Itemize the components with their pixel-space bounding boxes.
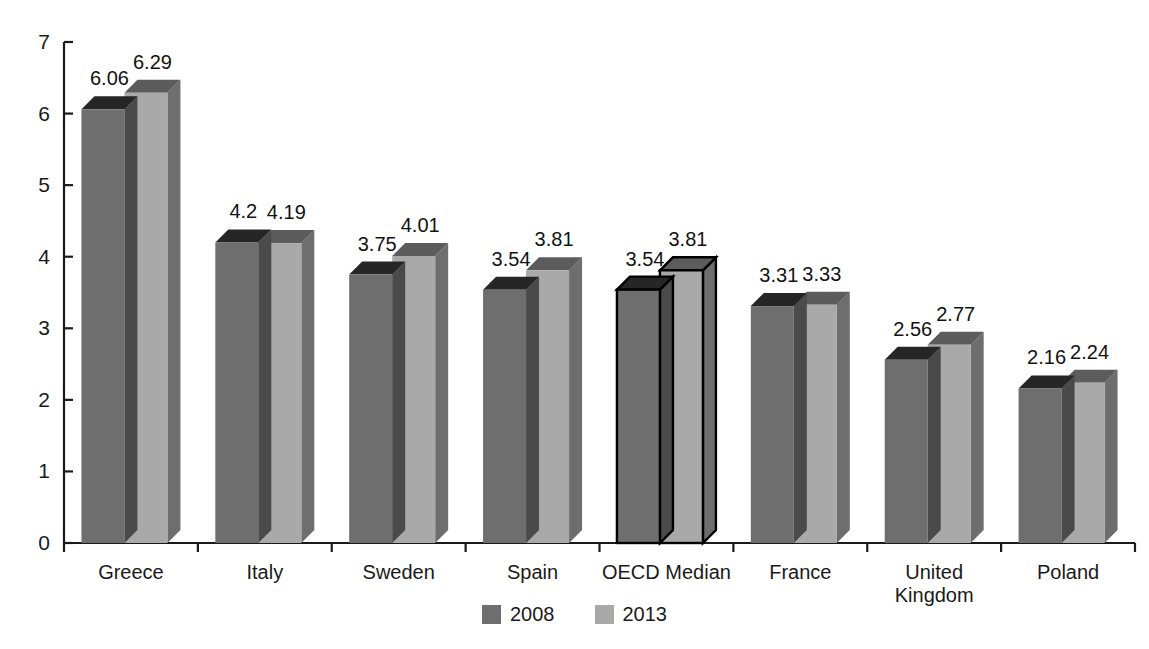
value-label-2013-italy: 4.19 xyxy=(248,202,324,222)
x-category-label-oecd-median: OECD Median xyxy=(600,561,734,584)
y-tick-label-2: 2 xyxy=(16,389,50,410)
value-label-2013-sweden: 4.01 xyxy=(382,215,458,235)
chart-legend: 20082013 xyxy=(0,604,1149,624)
y-tick-label-5: 5 xyxy=(16,174,50,195)
legend-item-2008[interactable]: 2008 xyxy=(482,604,555,624)
value-label-2008-spain: 3.54 xyxy=(473,249,549,269)
value-label-2013-poland: 2.24 xyxy=(1052,342,1128,362)
y-tick-label-0: 0 xyxy=(16,532,50,553)
value-label-2013-spain: 3.81 xyxy=(516,229,592,249)
y-tick-label-4: 4 xyxy=(16,246,50,267)
y-tick-label-3: 3 xyxy=(16,317,50,338)
value-label-2008-oecd-median: 3.54 xyxy=(607,249,683,269)
bar-chart: 76543210 6.066.294.24.193.754.013.543.81… xyxy=(0,0,1149,649)
x-category-label-sweden: Sweden xyxy=(332,561,466,584)
legend-item-2013[interactable]: 2013 xyxy=(595,604,668,624)
y-tick-label-7: 7 xyxy=(16,31,50,52)
x-category-label-poland: Poland xyxy=(1001,561,1135,584)
y-tick-label-1: 1 xyxy=(16,460,50,481)
bar-3d xyxy=(483,277,539,543)
legend-swatch-2008 xyxy=(482,605,501,624)
bar-3d xyxy=(617,277,673,543)
bar-3d xyxy=(885,347,941,543)
bar-3d xyxy=(81,96,137,543)
value-label-2013-oecd-median: 3.81 xyxy=(650,229,726,249)
value-label-2008-sweden: 3.75 xyxy=(339,234,415,254)
legend-swatch-2013 xyxy=(595,605,614,624)
y-tick-label-6: 6 xyxy=(16,103,50,124)
chart-canvas xyxy=(0,0,1149,649)
bar-3d xyxy=(1019,375,1075,543)
bar-3d xyxy=(349,262,405,543)
x-category-label-italy: Italy xyxy=(198,561,332,584)
bar-3d xyxy=(215,229,271,543)
bar-3d xyxy=(751,293,807,543)
legend-label-2013: 2013 xyxy=(623,604,668,624)
x-category-label-france: France xyxy=(733,561,867,584)
legend-label-2008: 2008 xyxy=(510,604,555,624)
value-label-2013-france: 3.33 xyxy=(784,264,860,284)
value-label-2013-greece: 6.29 xyxy=(114,52,190,72)
value-label-2013-united-kingdom: 2.77 xyxy=(918,304,994,324)
x-category-label-spain: Spain xyxy=(466,561,600,584)
x-category-label-united-kingdom: United Kingdom xyxy=(867,561,1001,607)
x-category-label-greece: Greece xyxy=(64,561,198,584)
